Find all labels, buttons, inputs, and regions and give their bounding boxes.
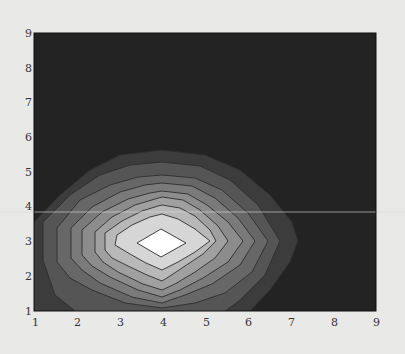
x-tick-label: 9 xyxy=(373,316,380,329)
y-tick-label: 8 xyxy=(25,62,32,75)
contour-plot: 1 2 3 4 5 6 7 8 9 1 2 3 4 5 6 7 8 9 xyxy=(0,0,405,354)
figure: 1 2 3 4 5 6 7 8 9 1 2 3 4 5 6 7 8 9 xyxy=(0,0,405,354)
y-axis-ticks: 1 2 3 4 5 6 7 8 9 xyxy=(25,27,32,318)
x-axis-ticks: 1 2 3 4 5 6 7 8 9 xyxy=(32,316,380,329)
x-tick-label: 3 xyxy=(117,316,124,329)
x-tick-label: 7 xyxy=(288,316,295,329)
y-tick-label: 6 xyxy=(25,131,32,144)
y-tick-label: 5 xyxy=(25,166,32,179)
y-tick-label: 4 xyxy=(25,200,32,213)
x-tick-label: 8 xyxy=(331,316,338,329)
y-tick-label: 1 xyxy=(25,305,32,318)
x-tick-label: 5 xyxy=(203,316,210,329)
x-tick-label: 4 xyxy=(160,316,167,329)
x-tick-label: 6 xyxy=(245,316,252,329)
x-tick-label: 2 xyxy=(74,316,81,329)
y-tick-label: 7 xyxy=(25,96,32,109)
x-tick-label: 1 xyxy=(32,316,39,329)
y-tick-label: 2 xyxy=(25,270,32,283)
y-tick-label: 3 xyxy=(25,235,32,248)
y-tick-label: 9 xyxy=(25,27,32,40)
